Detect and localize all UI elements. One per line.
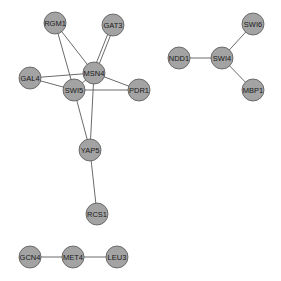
node-swi6[interactable]: SWI6 — [242, 13, 264, 35]
node-msn4[interactable]: MSN4 — [83, 62, 105, 84]
node-label: GAL4 — [20, 74, 39, 83]
node-label: MET4 — [63, 253, 83, 262]
node-label: PDR1 — [129, 86, 149, 95]
node-rgm1[interactable]: RGM1 — [44, 12, 66, 34]
edge-msn4-yap5 — [90, 73, 94, 150]
node-gcn4[interactable]: GCN4 — [19, 246, 41, 268]
network-diagram: RGM1GAT3MSN4GAL4SWI5PDR1YAP5RCS1NDD1SWI4… — [0, 0, 281, 281]
nodes-layer: RGM1GAT3MSN4GAL4SWI5PDR1YAP5RCS1NDD1SWI4… — [19, 12, 264, 268]
node-mbp1[interactable]: MBP1 — [242, 79, 264, 101]
node-label: SWI5 — [65, 86, 83, 95]
node-label: RCS1 — [87, 210, 107, 219]
node-label: SWI4 — [213, 54, 231, 63]
node-label: RGM1 — [44, 19, 66, 28]
node-label: NDD1 — [169, 54, 189, 63]
node-swi4[interactable]: SWI4 — [211, 47, 233, 69]
node-leu3[interactable]: LEU3 — [106, 246, 128, 268]
node-gal4[interactable]: GAL4 — [19, 67, 41, 89]
node-ndd1[interactable]: NDD1 — [168, 47, 190, 69]
node-label: GCN4 — [20, 253, 41, 262]
node-label: MBP1 — [243, 86, 263, 95]
node-label: SWI6 — [244, 20, 262, 29]
node-label: YAP5 — [81, 146, 100, 155]
node-label: GAT3 — [103, 21, 122, 30]
node-pdr1[interactable]: PDR1 — [128, 79, 150, 101]
node-yap5[interactable]: YAP5 — [79, 139, 101, 161]
node-swi5[interactable]: SWI5 — [63, 79, 85, 101]
node-gat3[interactable]: GAT3 — [102, 14, 124, 36]
node-label: LEU3 — [108, 253, 127, 262]
node-label: MSN4 — [84, 69, 105, 78]
node-met4[interactable]: MET4 — [62, 246, 84, 268]
node-rcs1[interactable]: RCS1 — [86, 203, 108, 225]
